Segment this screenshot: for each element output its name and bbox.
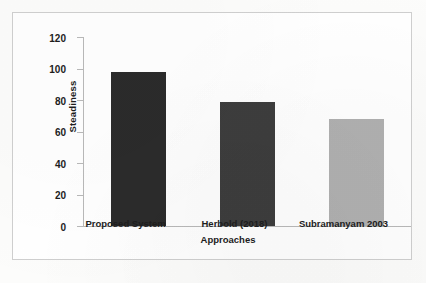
plot-area: 020406080100120 (71, 23, 411, 227)
y-tick-mark (77, 195, 84, 196)
y-tick-mark (77, 69, 84, 70)
y-tick: 20 (71, 195, 84, 196)
x-axis-title: Approaches (58, 234, 398, 245)
x-axis-category-labels: Proposed SystemHerbold (2018)Subramanyam… (58, 218, 398, 234)
y-tick: 100 (71, 69, 84, 70)
y-tick-label: 120 (49, 32, 66, 43)
y-tick-label: 60 (55, 127, 66, 138)
y-tick-label: 40 (55, 158, 66, 169)
scanned-figure-canvas: Steadiness 020406080100120 Proposed Syst… (0, 0, 426, 283)
y-tick-label: 80 (55, 95, 66, 106)
x-category-label: Herbold (2018) (180, 218, 289, 229)
y-tick-mark (77, 163, 84, 164)
y-tick-label: 20 (55, 190, 66, 201)
y-tick-label: 100 (49, 64, 66, 75)
bars-layer (84, 23, 411, 226)
x-category-label: Proposed System (71, 218, 180, 229)
bar (329, 119, 384, 226)
y-tick-mark (77, 37, 84, 38)
y-tick: 40 (71, 163, 84, 164)
y-tick: 80 (71, 100, 84, 101)
y-tick: 120 (71, 37, 84, 38)
y-tick-mark (77, 132, 84, 133)
x-category-label: Subramanyam 2003 (289, 218, 398, 229)
y-tick: 60 (71, 132, 84, 133)
bar (220, 102, 275, 226)
bar (111, 72, 166, 226)
y-tick-mark (77, 100, 84, 101)
